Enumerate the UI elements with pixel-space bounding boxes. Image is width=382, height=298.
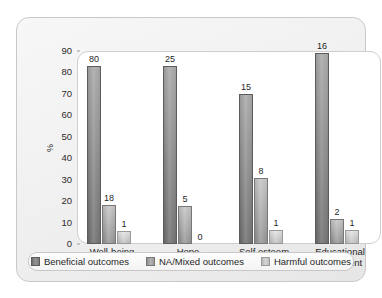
bar[interactable]: [163, 66, 177, 244]
bar-slot: 1: [345, 51, 359, 244]
legend-label: Harmful outcomes: [274, 256, 351, 267]
bar-slot: 1: [269, 51, 283, 244]
bar-slot: 0: [193, 51, 207, 244]
chart-figure-frame: 0102030405060708090 % 80181255015811621 …: [16, 17, 366, 282]
y-axis-tick-label: 10: [61, 218, 72, 228]
legend-item[interactable]: Harmful outcomes: [261, 256, 351, 267]
y-axis-tick-label: 90: [61, 46, 72, 56]
legend-swatch-icon: [261, 257, 270, 266]
bar-group: 1621: [315, 51, 359, 244]
legend-item[interactable]: Beneficial outcomes: [31, 256, 129, 267]
bar-group: 2550: [163, 51, 207, 244]
y-axis-tick-label: 70: [61, 89, 72, 99]
bar-value-label: 1: [349, 219, 354, 228]
bar-value-label: 1: [121, 220, 126, 229]
y-axis-tick-label: 80: [61, 68, 72, 78]
bar[interactable]: [178, 206, 192, 244]
bar-slot: 8: [254, 51, 268, 244]
bar[interactable]: [315, 53, 329, 244]
bar[interactable]: [269, 230, 283, 244]
legend-item[interactable]: NA/Mixed outcomes: [146, 256, 244, 267]
bar-group: 1581: [239, 51, 283, 244]
legend-swatch-icon: [146, 257, 155, 266]
bars-layer: 80181255015811621: [77, 51, 381, 244]
bar-value-label: 25: [165, 55, 175, 64]
legend-label: NA/Mixed outcomes: [159, 256, 244, 267]
bar-value-label: 0: [197, 233, 202, 242]
plot-region: 0102030405060708090 % 80181255015811621 …: [39, 26, 361, 242]
bar[interactable]: [254, 178, 268, 244]
bar-slot: 15: [239, 51, 253, 244]
bar-value-label: 15: [241, 83, 251, 92]
bar-value-label: 8: [258, 167, 263, 176]
y-axis-tick-label: 0: [67, 239, 72, 249]
legend-label: Beneficial outcomes: [44, 256, 129, 267]
bar[interactable]: [239, 94, 253, 244]
bar[interactable]: [330, 219, 344, 244]
bar[interactable]: [345, 230, 359, 244]
y-axis-title: %: [45, 144, 55, 152]
y-axis-tick-label: 60: [61, 111, 72, 121]
bar-slot: 1: [117, 51, 131, 244]
bar-value-label: 18: [104, 194, 114, 203]
bar-slot: 80: [87, 51, 101, 244]
chart-legend: Beneficial outcomesNA/Mixed outcomesHarm…: [28, 252, 354, 271]
bar-value-label: 80: [89, 55, 99, 64]
bar-slot: 18: [102, 51, 116, 244]
y-axis-tick-label: 40: [61, 153, 72, 163]
bar-slot: 25: [163, 51, 177, 244]
bar[interactable]: [117, 231, 131, 244]
bar[interactable]: [87, 66, 101, 244]
bar-value-label: 16: [317, 42, 327, 51]
y-axis-tick-label: 50: [61, 132, 72, 142]
bar-slot: 5: [178, 51, 192, 244]
bar[interactable]: [102, 205, 116, 244]
bar-group: 80181: [87, 51, 131, 244]
bar-slot: 16: [315, 51, 329, 244]
y-axis-tick-label: 20: [61, 196, 72, 206]
legend-swatch-icon: [31, 257, 40, 266]
bar-value-label: 5: [182, 195, 187, 204]
y-axis-tick-label: 30: [61, 175, 72, 185]
bar-value-label: 2: [334, 208, 339, 217]
bar-value-label: 1: [273, 219, 278, 228]
bar-slot: 2: [330, 51, 344, 244]
